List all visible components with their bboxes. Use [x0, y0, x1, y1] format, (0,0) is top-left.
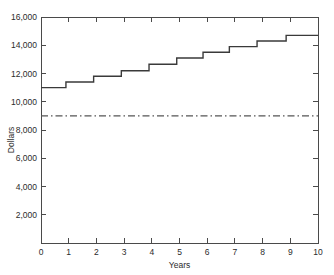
- x-tick-label: 10: [313, 247, 323, 257]
- y-tick-label: 2,000: [16, 210, 38, 220]
- chart-canvas: 2,0004,0006,0008,00010,00012,00014,00016…: [0, 0, 334, 275]
- y-tick-label: 8,000: [16, 125, 38, 135]
- chart-figure: 2,0004,0006,0008,00010,00012,00014,00016…: [0, 0, 334, 275]
- x-tick-label: 4: [149, 247, 154, 257]
- x-tick-label: 5: [177, 247, 182, 257]
- x-tick-label: 6: [205, 247, 210, 257]
- y-axis-title: Dollars: [6, 127, 16, 153]
- x-axis-title: Years: [169, 260, 190, 270]
- y-tick-label: 6,000: [16, 153, 38, 163]
- x-tick-label: 2: [94, 247, 99, 257]
- x-tick-label: 1: [66, 247, 71, 257]
- y-tick-label: 12,000: [11, 69, 37, 79]
- y-tick-label: 4,000: [16, 182, 38, 192]
- y-tick-label: 10,000: [11, 97, 37, 107]
- y-tick-label: 14,000: [11, 40, 37, 50]
- x-tick-label: 8: [260, 247, 265, 257]
- x-tick-label: 3: [122, 247, 127, 257]
- x-tick-label: 9: [288, 247, 293, 257]
- y-tick-label: 16,000: [11, 12, 37, 22]
- x-tick-label: 7: [233, 247, 238, 257]
- x-tick-label: 0: [39, 247, 44, 257]
